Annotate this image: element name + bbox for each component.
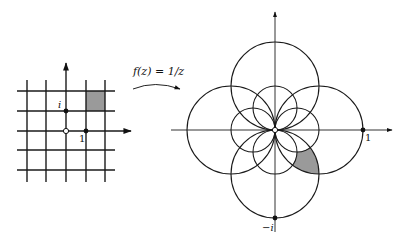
label-i-left: i	[58, 100, 61, 110]
point-minus-i	[273, 216, 278, 221]
mapping-label: f(z) = 1/z	[133, 66, 184, 77]
shaded-square	[86, 91, 105, 111]
right-w-plane	[171, 12, 400, 245]
origin-open-point	[63, 128, 68, 133]
label-minus-i: −i	[262, 223, 274, 233]
mapping-arrow	[133, 85, 180, 90]
point-i	[64, 109, 69, 114]
label-one-left: 1	[79, 134, 85, 144]
label-one-right: 1	[365, 133, 371, 143]
left-z-plane	[17, 63, 131, 182]
conformal-map-diagram	[0, 0, 402, 245]
origin-open-point-right	[272, 127, 277, 132]
